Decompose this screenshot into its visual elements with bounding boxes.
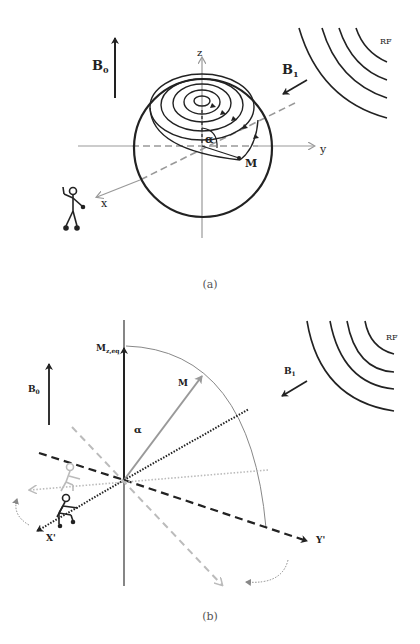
observer-icon <box>63 187 85 230</box>
figure-b: Mz,eq B0 M α X' Y' <box>16 320 398 623</box>
figure-a: B0 RF B1 z y x <box>63 28 392 291</box>
magnetization-label: M <box>245 157 257 170</box>
x-axis-label: x <box>101 197 108 210</box>
x-prime-label: X' <box>46 533 56 543</box>
y-prime-axis-left <box>39 453 124 480</box>
flip-angle-label-b: α <box>134 424 142 435</box>
flip-angle-label: α <box>205 133 214 146</box>
z-axis-label: z <box>197 47 202 58</box>
y-axis-label: y <box>319 143 327 156</box>
b1-arrow-b <box>282 381 307 396</box>
rotation-arrow-right <box>246 560 288 582</box>
rf-label: RF <box>380 37 392 46</box>
x-prime-dotted-up <box>124 409 249 480</box>
y-prime-label: Y' <box>315 535 325 545</box>
magnetization-vector <box>202 146 239 158</box>
x-axis <box>97 180 140 197</box>
figure-a-caption: (a) <box>202 278 217 291</box>
old-x-axis-dotted <box>30 470 268 490</box>
y-prime-axis <box>124 480 307 541</box>
observer-icon-b <box>57 495 78 528</box>
precession-arc <box>126 346 266 528</box>
figure-canvas: B0 RF B1 z y x <box>0 0 420 644</box>
b0-label: B0 <box>92 58 109 75</box>
figure-b-caption: (b) <box>202 610 218 623</box>
rotation-arrow-left <box>16 499 29 525</box>
b1-label-b: B1 <box>284 366 296 377</box>
rf-waves-icon-b <box>307 321 394 411</box>
b0-label-b: B0 <box>28 384 40 395</box>
magnetization-label-b: M <box>178 378 188 388</box>
rf-label-b: RF <box>386 333 398 342</box>
rf-waves-icon <box>299 28 387 118</box>
spiral-outer-arc <box>240 120 258 160</box>
magnetization-tip <box>237 156 241 160</box>
b1-label: B1 <box>282 62 299 79</box>
mz-eq-label: Mz,eq <box>96 343 120 355</box>
b1-arrow <box>283 80 307 94</box>
